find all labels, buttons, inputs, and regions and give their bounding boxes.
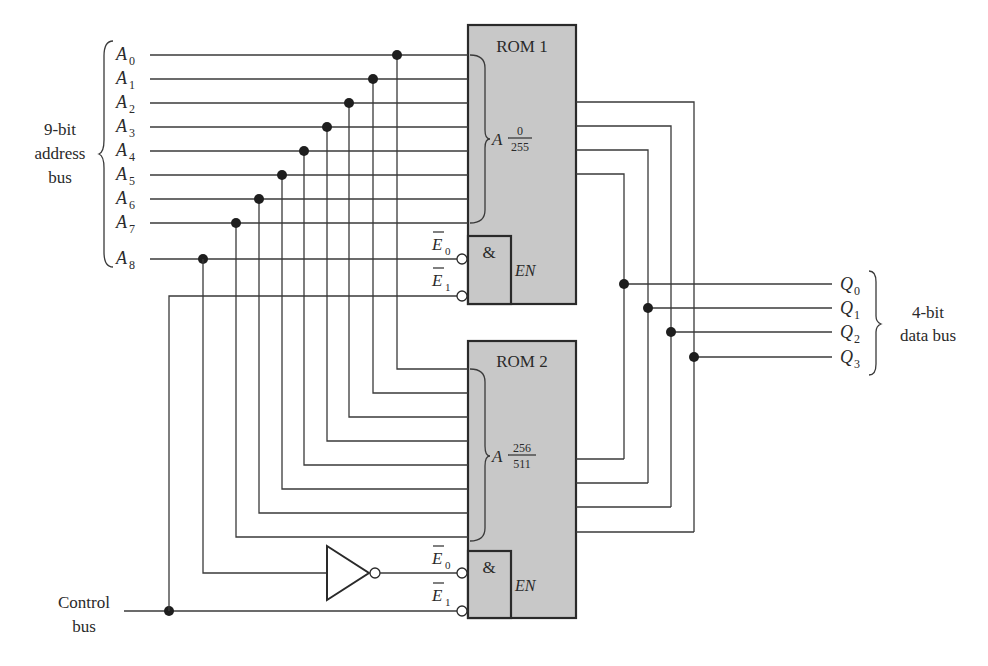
address-wires: [150, 50, 468, 537]
svg-text:address: address: [35, 144, 86, 163]
svg-text:4: 4: [129, 150, 135, 164]
svg-text:0: 0: [445, 245, 451, 257]
svg-text:7: 7: [129, 222, 135, 236]
rom2-address-label: A: [491, 447, 503, 466]
rom2-and-symbol: &: [482, 558, 495, 577]
svg-text:A: A: [115, 116, 128, 136]
rom1-title: ROM 1: [496, 37, 547, 56]
svg-text:3: 3: [854, 357, 860, 371]
svg-text:Q: Q: [840, 298, 853, 318]
junction-dot: [231, 218, 241, 228]
rom-expansion-diagram: ROM 1 A 0 255 & EN ROM 2 A 256 511 & EN: [0, 0, 988, 666]
svg-text:8: 8: [129, 258, 135, 272]
svg-text:0: 0: [854, 284, 860, 298]
control-bus-label: Control: [58, 593, 110, 612]
rom2-title: ROM 2: [496, 352, 547, 371]
svg-text:Q: Q: [840, 322, 853, 342]
svg-text:6: 6: [129, 198, 135, 212]
svg-text:A: A: [115, 92, 128, 112]
svg-text:0: 0: [445, 559, 451, 571]
rom2-enable-label: EN: [514, 577, 537, 594]
rom2-range-bottom: 511: [513, 457, 531, 471]
rom1-range-top: 0: [517, 124, 523, 138]
rom1-block: ROM 1 A 0 255 & EN: [468, 25, 576, 304]
rom1-e0-label: E: [431, 235, 443, 254]
svg-text:2: 2: [854, 332, 860, 346]
junction-dot: [322, 122, 332, 132]
rom2-e0-bubble: [457, 568, 467, 578]
svg-text:A: A: [115, 248, 128, 268]
control-bus-labels: Control bus: [58, 593, 110, 636]
rom1-e1-label: E: [431, 271, 443, 290]
junction-dot: [344, 98, 354, 108]
rom1-and-symbol: &: [482, 243, 495, 262]
svg-text:A: A: [115, 44, 128, 64]
rom1-range-bottom: 255: [511, 140, 529, 154]
rom2-enable-labels: E 0 E 1: [431, 546, 451, 608]
rom1-address-label: A: [491, 130, 503, 149]
svg-text:A: A: [115, 68, 128, 88]
junction-dot: [392, 50, 402, 60]
data-bus-labels: Q 0 Q 1 Q 2 Q 3 4-bit data bus: [840, 271, 956, 375]
svg-text:1: 1: [854, 308, 860, 322]
address-bus-brace: [99, 41, 113, 267]
svg-text:1: 1: [129, 78, 135, 92]
junction-dot: [643, 303, 653, 313]
rom1-enable-label: EN: [514, 262, 537, 279]
junction-dot: [277, 170, 287, 180]
rom2-e1-label: E: [431, 586, 443, 605]
inverter-gate: [327, 546, 369, 600]
data-bus-brace: [869, 271, 881, 375]
rom1-e1-bubble: [457, 291, 467, 301]
svg-text:1: 1: [445, 596, 451, 608]
svg-text:5: 5: [129, 174, 135, 188]
svg-text:bus: bus: [72, 617, 96, 636]
junction-dot: [368, 74, 378, 84]
svg-text:Q: Q: [840, 274, 853, 294]
svg-text:0: 0: [129, 54, 135, 68]
inverter-bubble: [370, 568, 380, 578]
svg-text:A: A: [115, 164, 128, 184]
svg-text:1: 1: [445, 281, 451, 293]
junction-dot: [619, 279, 629, 289]
junction-dot: [299, 146, 309, 156]
junction-dot: [666, 327, 676, 337]
junction-dot: [254, 194, 264, 204]
svg-text:A: A: [115, 212, 128, 232]
svg-text:A: A: [115, 188, 128, 208]
rom2-e0-label: E: [431, 549, 443, 568]
data-bus-label: 4-bit: [912, 303, 944, 322]
data-wires: [576, 102, 832, 532]
junction-dot: [689, 352, 699, 362]
rom1-e0-bubble: [457, 254, 467, 264]
rom2-block: ROM 2 A 256 511 & EN: [468, 341, 576, 618]
svg-text:data bus: data bus: [900, 326, 956, 345]
rom1-enable-labels: E 0 E 1: [431, 232, 451, 293]
rom2-e1-bubble: [457, 606, 467, 616]
address-bus-label: 9-bit: [44, 120, 76, 139]
rom2-range-top: 256: [513, 441, 531, 455]
svg-text:2: 2: [129, 102, 135, 116]
control-wiring: [124, 296, 457, 616]
svg-text:bus: bus: [48, 168, 72, 187]
svg-text:Q: Q: [840, 347, 853, 367]
svg-text:A: A: [115, 140, 128, 160]
address-bus-labels: A 0 A 1 A 2 A 3 A 4 A 5 A 6 A 7 A 8 9-bi…: [35, 41, 135, 272]
svg-text:3: 3: [129, 126, 135, 140]
